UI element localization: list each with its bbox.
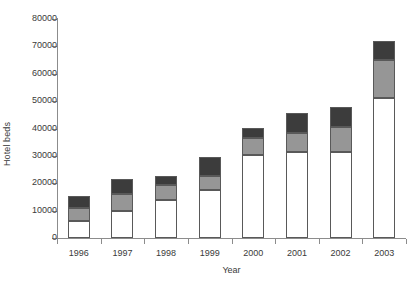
y-axis-tick-label: 80000 (9, 14, 57, 23)
bar-segment-top[interactable] (330, 107, 352, 128)
bar-segment-bottom[interactable] (111, 211, 133, 238)
y-axis-tick-label: 30000 (9, 151, 57, 160)
bar-segment-bottom[interactable] (286, 152, 308, 238)
x-axis-tick (57, 239, 58, 244)
y-axis-tick-label: 60000 (9, 69, 57, 78)
y-axis-tick-label: 0 (9, 233, 57, 242)
bar-group[interactable] (111, 0, 133, 239)
x-axis-tick-label: 1997 (99, 248, 145, 258)
bar-segment-middle[interactable] (242, 138, 264, 155)
stacked-bar-chart: Hotel beds 01000020000300004000050000600… (0, 0, 412, 288)
bar-segment-middle[interactable] (199, 176, 221, 190)
bar-segment-top[interactable] (111, 179, 133, 194)
bar-segment-top[interactable] (242, 128, 264, 138)
bar-group[interactable] (68, 0, 90, 239)
bar-segment-middle[interactable] (68, 208, 90, 221)
y-axis-tick-label: 40000 (9, 124, 57, 133)
y-axis-tick-label: 10000 (9, 206, 57, 215)
bar-segment-middle[interactable] (330, 127, 352, 152)
x-axis-tick (319, 239, 320, 244)
bar-segment-top[interactable] (373, 41, 395, 60)
bar-segment-middle[interactable] (286, 133, 308, 152)
bar-group[interactable] (199, 0, 221, 239)
y-axis-tick-label: 70000 (9, 41, 57, 50)
bar-group[interactable] (330, 0, 352, 239)
bar-segment-bottom[interactable] (68, 221, 90, 238)
x-axis-tick (101, 239, 102, 244)
y-axis-tick-layer: 0100002000030000400005000060000700008000… (0, 0, 57, 288)
x-axis-tick (144, 239, 145, 244)
bar-segment-middle[interactable] (155, 185, 177, 200)
x-axis-tick-label: 1996 (56, 248, 102, 258)
x-axis-tick (362, 239, 363, 244)
bar-segment-middle[interactable] (111, 194, 133, 210)
bar-segment-bottom[interactable] (373, 98, 395, 238)
bar-segment-bottom[interactable] (155, 200, 177, 238)
x-axis-tick-label: 2001 (274, 248, 320, 258)
bar-segment-bottom[interactable] (330, 152, 352, 238)
x-axis-tick (406, 239, 407, 244)
x-axis-tick-label: 2000 (230, 248, 276, 258)
x-axis-tick-label: 1999 (187, 248, 233, 258)
y-axis-tick-label: 50000 (9, 96, 57, 105)
bar-group[interactable] (155, 0, 177, 239)
bar-segment-top[interactable] (155, 176, 177, 185)
x-axis-tick-label: 2003 (361, 248, 407, 258)
x-axis-title: Year (57, 265, 406, 275)
bar-segment-top[interactable] (199, 157, 221, 176)
bar-segment-top[interactable] (68, 196, 90, 208)
bar-group[interactable] (242, 0, 264, 239)
bar-segment-bottom[interactable] (242, 155, 264, 238)
bar-group[interactable] (373, 0, 395, 239)
x-axis-tick (188, 239, 189, 244)
x-axis-tick-label: 2002 (318, 248, 364, 258)
bar-group[interactable] (286, 0, 308, 239)
x-axis-tick (232, 239, 233, 244)
bar-segment-top[interactable] (286, 113, 308, 132)
x-axis-tick (275, 239, 276, 244)
y-axis-tick-label: 20000 (9, 178, 57, 187)
plot-area (57, 0, 406, 239)
x-axis-tick-label: 1998 (143, 248, 189, 258)
bar-segment-bottom[interactable] (199, 190, 221, 238)
bar-segment-middle[interactable] (373, 60, 395, 98)
